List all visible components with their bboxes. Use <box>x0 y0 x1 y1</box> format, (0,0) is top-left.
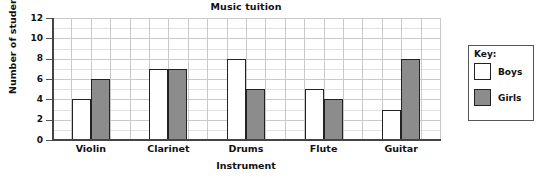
y-tick-mark <box>46 120 52 121</box>
y-tick-mark <box>46 99 52 100</box>
gridline-vertical <box>421 18 422 140</box>
y-tick-label-10: 10 <box>18 34 43 43</box>
bar-flute-boys <box>305 89 324 140</box>
y-tick-mark <box>46 79 52 80</box>
chart-legend: Key: Boys Girls <box>468 45 534 121</box>
bar-drums-girls <box>246 89 265 140</box>
x-tick-label-guitar: Guitar <box>362 143 440 154</box>
y-tick-mark <box>46 140 52 141</box>
legend-title: Key: <box>474 49 496 59</box>
gridline-vertical <box>207 18 208 140</box>
x-tick-label-drums: Drums <box>207 143 285 154</box>
y-tick-label-4: 4 <box>18 95 43 104</box>
x-axis-title: Instrument <box>52 160 440 171</box>
y-axis-title: Number of students <box>7 0 18 101</box>
y-tick-label-0: 0 <box>18 136 43 145</box>
y-tick-label-2: 2 <box>18 115 43 124</box>
x-tick-label-flute: Flute <box>285 143 363 154</box>
gridline-vertical <box>440 18 441 140</box>
bar-flute-girls <box>324 99 343 140</box>
gridline-vertical <box>343 18 344 140</box>
y-tick-label-6: 6 <box>18 75 43 84</box>
bar-clarinet-boys <box>149 69 168 140</box>
y-tick-label-8: 8 <box>18 54 43 63</box>
chart-title: Music tuition <box>52 1 440 12</box>
y-tick-mark <box>46 59 52 60</box>
y-tick-label-12: 12 <box>18 14 43 23</box>
legend-swatch-girls <box>474 89 491 106</box>
y-axis-line <box>52 18 54 140</box>
x-tick-label-violin: Violin <box>52 143 130 154</box>
legend-swatch-boys <box>474 63 491 80</box>
gridline-vertical <box>265 18 266 140</box>
plot-area <box>52 18 440 140</box>
y-tick-mark <box>46 18 52 19</box>
gridline-vertical <box>362 18 363 140</box>
legend-label-boys: Boys <box>498 67 522 77</box>
gridline-vertical <box>130 18 131 140</box>
bar-chart-figure: Music tuition Number of students Instrum… <box>0 0 545 178</box>
bar-violin-boys <box>72 99 91 140</box>
x-tick-label-clarinet: Clarinet <box>130 143 208 154</box>
bar-guitar-girls <box>401 59 420 140</box>
legend-label-girls: Girls <box>498 93 521 103</box>
bar-violin-girls <box>91 79 110 140</box>
gridline-vertical <box>110 18 111 140</box>
bar-clarinet-girls <box>168 69 187 140</box>
bar-drums-boys <box>227 59 246 140</box>
bar-guitar-boys <box>382 110 401 141</box>
gridline-vertical <box>188 18 189 140</box>
x-axis-line <box>52 139 441 141</box>
y-tick-mark <box>46 38 52 39</box>
gridline-vertical <box>285 18 286 140</box>
